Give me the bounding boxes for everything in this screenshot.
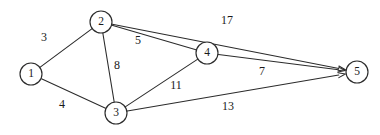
edge-weight-label: 4 xyxy=(59,97,65,111)
graph-canvas: 3344885511111717771313 12345 xyxy=(0,0,380,135)
edge-weight-label: 7 xyxy=(259,64,265,78)
edge-weights-layer: 3344885511111717771313 xyxy=(41,13,265,113)
graph-edge xyxy=(112,25,196,50)
edge-weight-label: 3 xyxy=(41,30,47,44)
edge-weight-label: 8 xyxy=(114,58,120,72)
graph-node-2[interactable]: 2 xyxy=(90,11,112,33)
node-label: 4 xyxy=(204,46,210,58)
graph-node-5[interactable]: 5 xyxy=(346,61,368,83)
graph-edge xyxy=(126,59,198,106)
graph-node-3[interactable]: 3 xyxy=(105,102,127,124)
node-label: 2 xyxy=(98,15,104,27)
node-label: 3 xyxy=(113,106,119,118)
edge-weight-label: 5 xyxy=(135,33,141,47)
graph-node-4[interactable]: 4 xyxy=(196,42,218,64)
graph-figure: 3344885511111717771313 12345 xyxy=(0,0,380,135)
graph-edge xyxy=(112,24,339,68)
nodes-layer: 12345 xyxy=(20,11,368,124)
node-label: 5 xyxy=(354,65,360,77)
graph-edge xyxy=(41,79,105,108)
edges-layer xyxy=(40,24,339,111)
edge-weight-label: 11 xyxy=(170,78,182,92)
graph-edge xyxy=(40,29,92,67)
graph-node-1[interactable]: 1 xyxy=(20,63,42,85)
edge-weight-label: 13 xyxy=(222,99,234,113)
node-label: 1 xyxy=(28,67,34,79)
graph-edge xyxy=(103,33,114,101)
edge-weight-label: 17 xyxy=(221,13,233,27)
arrowheads-layer xyxy=(338,66,345,78)
